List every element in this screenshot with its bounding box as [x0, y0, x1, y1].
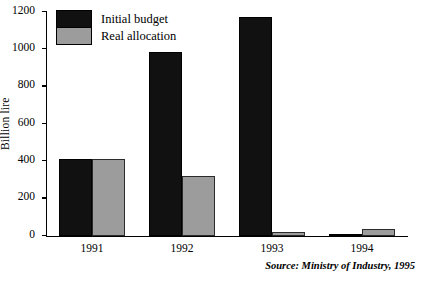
source-note: Source: Ministry of Industry, 1995: [265, 260, 415, 271]
bar-initial-budget-1994: [329, 234, 362, 236]
y-axis-tick: 1200: [42, 11, 47, 12]
x-axis-tick-label: 1994: [351, 242, 374, 254]
y-axis-tick: 600: [42, 123, 47, 124]
bar-real-allocation-1991: [92, 159, 125, 236]
legend-item-real-allocation: [57, 27, 91, 44]
y-axis-tick: 400: [42, 160, 47, 161]
y-axis-tick: 800: [42, 85, 47, 86]
y-axis-tick-label: 800: [18, 80, 35, 92]
x-axis-tick-label: 1992: [171, 242, 194, 254]
chart-root: Billion lire 020040060080010001200 Initi…: [0, 0, 421, 282]
y-axis-tick-label: 400: [18, 154, 35, 166]
y-axis-tick-label: 1000: [12, 42, 35, 54]
y-axis-tick-label: 200: [18, 192, 35, 204]
y-axis-tick: 200: [42, 197, 47, 198]
x-axis-tick-label: 1991: [81, 242, 104, 254]
plot-area: 020040060080010001200: [47, 12, 407, 236]
bar-real-allocation-1994: [362, 229, 395, 236]
legend-label-real-allocation: Real allocation: [101, 29, 176, 44]
legend-swatch-initial-budget: [57, 11, 91, 27]
y-axis-tick: 0: [42, 235, 47, 236]
bar-initial-budget-1992: [149, 52, 182, 236]
bar-real-allocation-1993: [272, 232, 305, 236]
bar-real-allocation-1992: [182, 176, 215, 236]
legend-item-initial-budget: [57, 11, 91, 27]
bar-initial-budget-1991: [59, 159, 92, 236]
legend-label-initial-budget: Initial budget: [101, 12, 168, 27]
y-axis-title: Billion lire: [0, 97, 11, 150]
y-axis-tick-label: 0: [29, 229, 35, 241]
bar-initial-budget-1993: [239, 17, 272, 236]
y-axis-tick-label: 600: [18, 117, 35, 129]
y-axis-tick-label: 1200: [12, 5, 35, 17]
chart-legend: Initial budget Real allocation: [56, 10, 92, 45]
legend-swatch-real-allocation: [57, 27, 91, 44]
y-axis-tick: 1000: [42, 48, 47, 49]
x-axis-tick-label: 1993: [261, 242, 284, 254]
